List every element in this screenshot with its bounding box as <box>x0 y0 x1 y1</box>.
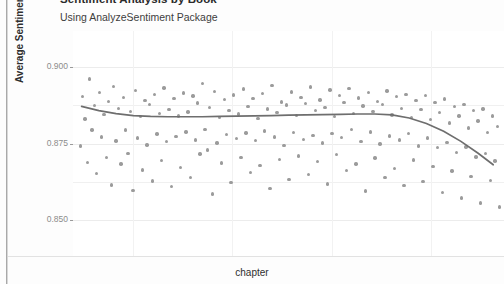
x-axis-label: chapter <box>0 267 504 278</box>
plot-page: Sentiment Analysis by Book Using Analyze… <box>0 0 504 284</box>
y-tick-text: 0.850 <box>47 214 68 224</box>
chart-subtitle: Using AnalyzeSentiment Package <box>60 11 218 23</box>
y-tick-text: 0.900 <box>47 61 68 71</box>
page-left-edge-shadow <box>7 0 8 284</box>
trend-line <box>73 31 504 256</box>
chart-title: Sentiment Analysis by Book <box>60 0 217 5</box>
y-tick-text: 0.875 <box>47 138 68 148</box>
panel-baseline <box>8 256 504 257</box>
y-axis-label: Average Sentiment <box>14 0 25 83</box>
plot-panel <box>73 31 504 256</box>
